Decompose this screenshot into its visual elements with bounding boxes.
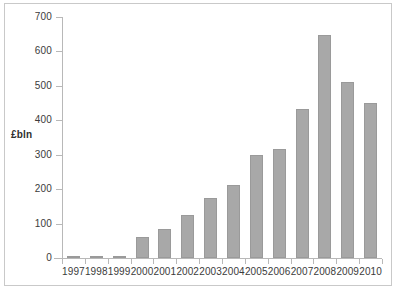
y-tick-label-wrap: 100 — [0, 219, 52, 229]
x-tick-mark — [291, 259, 292, 264]
y-tick-label-wrap: 200 — [0, 184, 52, 194]
bar — [341, 82, 354, 258]
y-axis-line — [62, 17, 63, 259]
bar — [204, 198, 217, 258]
y-tick-mark — [56, 86, 62, 87]
x-tick-mark — [336, 259, 337, 264]
bar — [250, 155, 263, 258]
y-tick-mark — [56, 17, 62, 18]
y-axis-title: £bln — [11, 129, 32, 140]
y-tick-mark — [56, 120, 62, 121]
x-tick-label: 1999 — [108, 266, 131, 277]
x-tick-mark — [245, 259, 246, 264]
x-tick-label: 2006 — [268, 266, 291, 277]
y-tick-mark — [56, 155, 62, 156]
y-tick-label: 0 — [6, 253, 52, 263]
x-tick-label: 1998 — [85, 266, 108, 277]
x-tick-label: 2008 — [313, 266, 336, 277]
x-tick-label: 2001 — [153, 266, 176, 277]
x-tick-label: 2005 — [245, 266, 268, 277]
bar — [90, 256, 103, 258]
x-tick-mark — [382, 259, 383, 264]
bar — [67, 256, 80, 258]
x-tick-mark — [131, 259, 132, 264]
x-tick-mark — [268, 259, 269, 264]
x-tick-label: 2007 — [291, 266, 314, 277]
y-tick-label: 300 — [6, 150, 52, 160]
y-tick-label-wrap: 600 — [0, 46, 52, 56]
x-axis-line — [54, 258, 382, 259]
bar — [318, 35, 331, 258]
x-tick-mark — [85, 259, 86, 264]
x-tick-label: 2010 — [359, 266, 382, 277]
x-tick-mark — [199, 259, 200, 264]
bar — [296, 109, 309, 258]
x-tick-mark — [153, 259, 154, 264]
x-tick-mark — [313, 259, 314, 264]
x-tick-label: 1997 — [62, 266, 85, 277]
y-tick-label: 400 — [6, 115, 52, 125]
y-tick-label-wrap: 500 — [0, 81, 52, 91]
bar — [113, 256, 126, 258]
x-tick-mark — [108, 259, 109, 264]
x-tick-label: 2002 — [176, 266, 199, 277]
y-tick-mark — [56, 224, 62, 225]
x-tick-label: 2000 — [131, 266, 154, 277]
y-tick-label: 600 — [6, 46, 52, 56]
x-tick-label: 2009 — [336, 266, 359, 277]
bar — [364, 103, 377, 258]
bar — [136, 237, 149, 258]
x-tick-mark — [222, 259, 223, 264]
bar — [273, 149, 286, 258]
y-tick-label-wrap: 400 — [0, 115, 52, 125]
y-tick-label: 700 — [6, 12, 52, 22]
y-tick-mark — [56, 51, 62, 52]
chart-figure: £bln 0100200300400500600700 199719981999… — [0, 0, 396, 290]
bar — [227, 185, 240, 258]
x-tick-mark — [62, 259, 63, 264]
bar — [158, 229, 171, 258]
y-tick-label: 200 — [6, 184, 52, 194]
x-tick-mark — [359, 259, 360, 264]
x-tick-mark — [176, 259, 177, 264]
y-tick-label-wrap: 0 — [0, 253, 52, 263]
x-tick-label: 2004 — [222, 266, 245, 277]
y-tick-label: 100 — [6, 219, 52, 229]
bar — [181, 215, 194, 258]
y-tick-label-wrap: 700 — [0, 12, 52, 22]
y-tick-mark — [56, 189, 62, 190]
x-tick-label: 2003 — [199, 266, 222, 277]
y-tick-label: 500 — [6, 81, 52, 91]
plot-area — [62, 17, 382, 258]
y-tick-label-wrap: 300 — [0, 150, 52, 160]
